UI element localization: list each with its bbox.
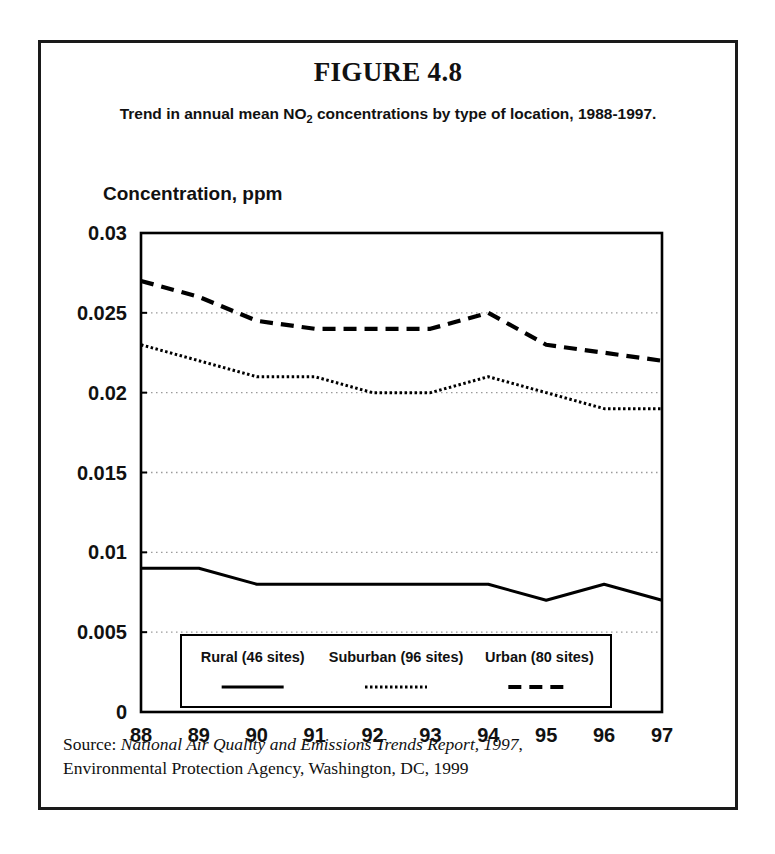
series-line (141, 345, 662, 409)
figure-page: FIGURE 4.8 Trend in annual mean NO2 conc… (0, 0, 775, 854)
legend-label: Rural (46 sites) (201, 649, 305, 665)
source-note: Source: National Air Quality and Emissio… (63, 733, 713, 780)
series-line (141, 568, 662, 600)
series-line (141, 281, 662, 361)
source-comma: , (519, 734, 523, 754)
y-axis-tick-label: 0.03 (88, 222, 127, 244)
y-axis-tick-label: 0.02 (88, 382, 127, 404)
source-title: National Air Quality and Emissions Trend… (121, 734, 519, 754)
source-label: Source: (63, 734, 116, 754)
source-publisher: Environmental Protection Agency, Washing… (63, 758, 468, 778)
line-chart-svg: 00.0050.010.0150.020.0250.03888990919293… (41, 43, 735, 743)
y-axis-tick-label: 0.015 (77, 462, 127, 484)
legend-label: Suburban (96 sites) (329, 649, 464, 665)
y-axis-tick-label: 0.005 (77, 621, 127, 643)
legend-label: Urban (80 sites) (485, 649, 594, 665)
y-axis-tick-label: 0.01 (88, 541, 127, 563)
figure-border: FIGURE 4.8 Trend in annual mean NO2 conc… (38, 40, 738, 810)
y-axis-tick-label: 0 (116, 701, 127, 723)
legend-box (181, 635, 611, 707)
y-axis-tick-label: 0.025 (77, 302, 127, 324)
chart-area: 00.0050.010.0150.020.0250.03888990919293… (41, 43, 735, 807)
